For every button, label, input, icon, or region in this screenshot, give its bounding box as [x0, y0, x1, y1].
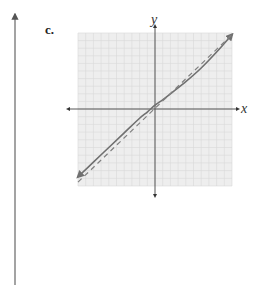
y-axis-label: y — [149, 12, 158, 27]
figure: c. x y — [0, 0, 268, 287]
problem-label: c. — [45, 22, 54, 37]
plot-area: x y — [68, 12, 248, 196]
x-axis-label: x — [240, 101, 248, 116]
